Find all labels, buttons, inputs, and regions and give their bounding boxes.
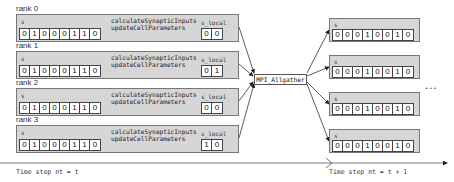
bit: 0 bbox=[40, 103, 50, 113]
bit: 1 bbox=[70, 103, 80, 113]
bit: 0 bbox=[343, 67, 353, 77]
bit: 0 bbox=[50, 140, 60, 150]
bit: 0 bbox=[212, 140, 222, 150]
bit: 1 bbox=[363, 67, 373, 77]
bit: 0 bbox=[333, 104, 343, 114]
bit: 0 bbox=[202, 29, 212, 39]
s-label: s bbox=[334, 58, 338, 65]
function-calculate-synaptic-inputs: calculateSynapticInputs bbox=[111, 91, 197, 98]
bit: 1 bbox=[363, 141, 373, 151]
bit: 0 bbox=[60, 140, 70, 150]
ellipsis: ... bbox=[425, 80, 438, 91]
s-array: 0 1 0 0 0 1 1 0 bbox=[19, 139, 101, 151]
bit: 0 bbox=[50, 103, 60, 113]
result-2-box: s 0 0 0 1 0 0 1 0 bbox=[329, 92, 420, 116]
bit: 1 bbox=[70, 66, 80, 76]
s-local-label: s_local bbox=[201, 130, 226, 137]
bit: 1 bbox=[80, 29, 90, 39]
bit: 1 bbox=[212, 66, 222, 76]
bit: 0 bbox=[333, 141, 343, 151]
bit: 0 bbox=[403, 67, 413, 77]
bit: 0 bbox=[343, 30, 353, 40]
s-array: 0 1 0 0 0 1 1 0 bbox=[19, 28, 101, 40]
rank-label: rank 3 bbox=[16, 115, 38, 124]
bit: 0 bbox=[373, 141, 383, 151]
bit: 0 bbox=[333, 67, 343, 77]
function-calculate-synaptic-inputs: calculateSynapticInputs bbox=[111, 128, 197, 135]
bit: 1 bbox=[30, 103, 40, 113]
s-label: s bbox=[21, 18, 25, 25]
bit: 1 bbox=[30, 29, 40, 39]
s-label: s bbox=[334, 21, 338, 28]
s-array: 0 0 0 1 0 0 1 0 bbox=[332, 140, 414, 152]
function-update-cell-parameters: updateCellParameters bbox=[111, 135, 186, 142]
bit: 1 bbox=[80, 140, 90, 150]
bit: 0 bbox=[373, 104, 383, 114]
bit: 0 bbox=[373, 67, 383, 77]
s-local-array: 0 1 bbox=[201, 65, 223, 77]
bit: 0 bbox=[383, 104, 393, 114]
function-update-cell-parameters: updateCellParameters bbox=[111, 61, 186, 68]
s-local-array: 0 0 bbox=[201, 28, 223, 40]
s-label: s bbox=[334, 132, 338, 139]
bit: 0 bbox=[50, 29, 60, 39]
bit: 0 bbox=[373, 30, 383, 40]
bit: 0 bbox=[343, 141, 353, 151]
s-local-label: s_local bbox=[201, 19, 226, 26]
s-array: 0 0 0 1 0 0 1 0 bbox=[332, 66, 414, 78]
function-update-cell-parameters: updateCellParameters bbox=[111, 98, 186, 105]
bit: 0 bbox=[60, 66, 70, 76]
bit: 0 bbox=[383, 67, 393, 77]
rank-3-box: s 0 1 0 0 0 1 1 0 calculateSynapticInput… bbox=[16, 125, 239, 153]
mpi-allgather-box: MPI_Allgather bbox=[254, 74, 307, 85]
bit: 1 bbox=[80, 66, 90, 76]
rank-2-box: s 0 1 0 0 0 1 1 0 calculateSynapticInput… bbox=[16, 88, 239, 116]
s-local-label: s_local bbox=[201, 93, 226, 100]
time-step-t-plus-1-label: Time step nt = t + 1 bbox=[329, 168, 407, 176]
bit: 1 bbox=[70, 29, 80, 39]
function-calculate-synaptic-inputs: calculateSynapticInputs bbox=[111, 54, 197, 61]
bit: 0 bbox=[403, 30, 413, 40]
bit: 0 bbox=[40, 140, 50, 150]
s-label: s bbox=[21, 92, 25, 99]
bit: 0 bbox=[383, 141, 393, 151]
bit: 0 bbox=[403, 104, 413, 114]
bit: 0 bbox=[333, 30, 343, 40]
bit: 0 bbox=[353, 67, 363, 77]
s-array: 0 1 0 0 0 1 1 0 bbox=[19, 65, 101, 77]
bit: 0 bbox=[353, 30, 363, 40]
bit: 0 bbox=[202, 66, 212, 76]
bit: 0 bbox=[90, 29, 100, 39]
bit: 0 bbox=[212, 103, 222, 113]
bit: 0 bbox=[90, 66, 100, 76]
result-0-box: s 0 0 0 1 0 0 1 0 bbox=[329, 18, 420, 42]
bit: 1 bbox=[363, 30, 373, 40]
time-step-t-label: Time step nt = t bbox=[16, 168, 79, 176]
rank-1-box: s 0 1 0 0 0 1 1 0 calculateSynapticInput… bbox=[16, 51, 239, 79]
bit: 1 bbox=[393, 104, 403, 114]
rank-label: rank 2 bbox=[16, 78, 38, 87]
bit: 0 bbox=[40, 66, 50, 76]
bit: 0 bbox=[60, 103, 70, 113]
rank-0-box: s 0 1 0 0 0 1 1 0 calculateSynapticInput… bbox=[16, 14, 239, 42]
bit: 0 bbox=[383, 30, 393, 40]
s-label: s bbox=[21, 55, 25, 62]
function-calculate-synaptic-inputs: calculateSynapticInputs bbox=[111, 17, 197, 24]
bit: 0 bbox=[60, 29, 70, 39]
bit: 1 bbox=[70, 140, 80, 150]
bit: 0 bbox=[202, 103, 212, 113]
function-update-cell-parameters: updateCellParameters bbox=[111, 24, 186, 31]
s-local-array: 1 0 bbox=[201, 139, 223, 151]
s-label: s bbox=[334, 95, 338, 102]
bit: 0 bbox=[20, 140, 30, 150]
result-3-box: s 0 0 0 1 0 0 1 0 bbox=[329, 129, 420, 153]
bit: 0 bbox=[50, 66, 60, 76]
s-local-label: s_local bbox=[201, 56, 226, 63]
s-local-array: 0 0 bbox=[201, 102, 223, 114]
s-label: s bbox=[21, 129, 25, 136]
rank-label: rank 0 bbox=[16, 4, 38, 13]
bit: 0 bbox=[20, 29, 30, 39]
s-array: 0 1 0 0 0 1 1 0 bbox=[19, 102, 101, 114]
bit: 0 bbox=[90, 140, 100, 150]
bit: 1 bbox=[202, 140, 212, 150]
